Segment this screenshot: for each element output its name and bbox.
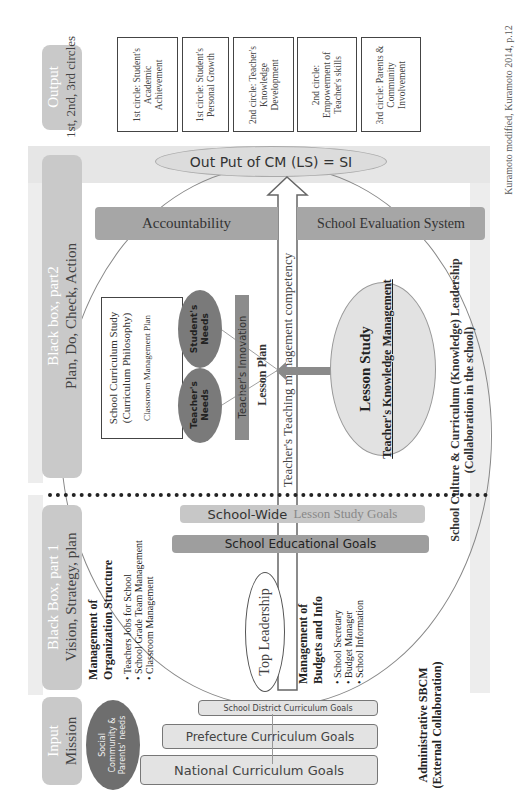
school-evaluation-bar: School Evaluation System [297,207,485,240]
lesson-study-ellipse: Lesson Study Teacher's Knowledge Managem… [330,282,436,456]
stage-input-subtitle: Mission [62,717,80,765]
knowledge-management-label: Teacher's Knowledge Management [380,279,395,459]
output-box-5: 3rd circle: Parents & Community Involvem… [361,37,421,132]
social-needs-label: Social Community & Parents' needs [98,710,128,780]
stage-black-box-1: Black Box, part 1 Vision, Strategy, plan [42,505,82,690]
org-management-title1: Management of [86,540,101,680]
curriculum-study-line1: School Curriculum Study [107,312,120,424]
output-ellipse: Out Put of CM (LS) = SI [155,146,387,177]
stage-output: Output 1st, 2nd, 3rd circles [42,45,82,130]
stage-bb1-title: Black Box, part 1 [44,533,62,662]
school-wide-goals-bar: School-Wide Lesson Study Goals [180,505,425,523]
lesson-study-goals-label: Lesson Study Goals [293,506,397,522]
budget-management-block: Management of Budgets and Info • School … [296,596,365,684]
output-box-4-label: 2nd circle: Empowerment of Teacher's ski… [311,41,344,129]
output-box-2-label: 1st circle: Student's Personal Growth [195,41,217,129]
administrative-sbcm-label: Administrative SBCM (External Collaborat… [416,662,444,789]
prefecture-goals-label: Prefecture Curriculum Goals [186,730,355,744]
bb1-left-band [28,495,43,695]
output-box-3-label: 2nd circle: Teacher's Knowledge Developm… [248,41,281,129]
educational-goals-label: School Educational Goals [225,537,376,551]
educational-goals-bar: School Educational Goals [172,535,429,553]
social-needs-ellipse: Social Community & Parents' needs [86,700,140,790]
output-box-2: 1st circle: Student's Personal Growth [182,37,229,132]
org-management-block: Management of Organization Structure • T… [86,540,155,680]
curriculum-study-box: School Curriculum Study (Curriculum Phil… [101,297,183,439]
district-goals-label: School District Curriculum Goals [223,704,352,713]
school-culture-line2: (Collaboration in the school) [462,258,476,541]
stage-bb2-title: Black box, part2 [44,243,62,389]
org-item: • Classroom Management [144,540,155,680]
school-culture-line1: School Culture & Curriculum (Knowledge) … [448,258,462,541]
lesson-plan-label: Lesson Plan [255,344,270,406]
bb2-left-band [28,183,43,483]
org-item: • School Grade Team Management [133,540,144,680]
district-goals-box: School District Curriculum Goals [198,700,378,716]
school-culture-label: School Culture & Curriculum (Knowledge) … [448,258,476,541]
budget-management-title1: Management of [296,596,311,684]
budget-management-title2: Budgets and Info [311,596,326,684]
citation: Kuramoto modified, Kuramoto 2014, p.12 [503,25,514,195]
stage-bb2-subtitle: Plan, Do, Check, Action [62,243,80,389]
org-item: • Teachers Jobs for School [122,540,133,680]
accountability-bar: Accountability [95,207,278,240]
prefecture-goals-box: Prefecture Curriculum Goals [162,724,378,749]
accountability-label: Accountability [142,215,231,232]
curriculum-study-line2: (Curriculum Philosophy) [120,312,133,424]
stage-input-title: Input [44,717,62,765]
stage-divider [48,493,488,497]
output-box-4: 2nd circle: Empowerment of Teacher's ski… [297,37,357,132]
lesson-study-title: Lesson Study [357,279,374,459]
budget-item: • School Information [354,596,365,684]
org-management-title2: Organization Structure [101,540,116,680]
national-goals-label: National Curriculum Goals [174,763,344,778]
school-evaluation-label: School Evaluation System [317,216,465,232]
output-box-3: 2nd circle: Teacher's Knowledge Developm… [233,37,294,132]
output-box-1-label: 1st circle: Student's Academic Achieveme… [132,41,165,129]
classroom-plan-label: Classroom Management Plan [141,312,154,424]
budget-item: • School Secretary [332,596,343,684]
stage-black-box-2: Black box, part2 Plan, Do, Check, Action [42,155,82,478]
top-leadership-label: Top Leadership [257,588,273,675]
stage-bb1-subtitle: Vision, Strategy, plan [62,533,80,662]
stage-output-title: Output [44,36,62,138]
output-ellipse-label: Out Put of CM (LS) = SI [190,154,352,170]
stage-input: Input Mission [42,697,82,785]
national-goals-box: National Curriculum Goals [140,755,378,785]
top-leadership-ellipse: Top Leadership [245,572,285,692]
administrative-line2: (External Collaboration) [430,662,444,789]
stage-output-subtitle: 1st, 2nd, 3rd circles [62,36,80,138]
administrative-line1: Administrative SBCM [416,662,430,789]
budget-item: • Budget Manager [343,596,354,684]
goals-up-line [272,714,273,764]
output-box-5-label: 3rd circle: Parents & Community Involvem… [375,41,408,129]
school-wide-label: School-Wide [208,507,288,522]
output-box-1: 1st circle: Student's Academic Achieveme… [117,37,178,132]
